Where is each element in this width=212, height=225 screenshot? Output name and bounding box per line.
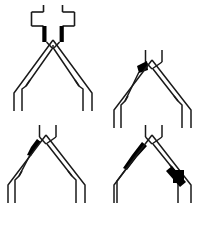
figure-panel: Coronary bifurcation lesion classificati…: [0, 0, 212, 225]
bifurcation-diagrams-svg: [0, 0, 212, 225]
canvas-background: [0, 0, 212, 225]
right-branch-block-plaque-core: [173, 170, 184, 183]
proximal-main-vessel-plaque-right: [60, 26, 64, 42]
proximal-main-vessel-plaque-left: [42, 26, 46, 42]
